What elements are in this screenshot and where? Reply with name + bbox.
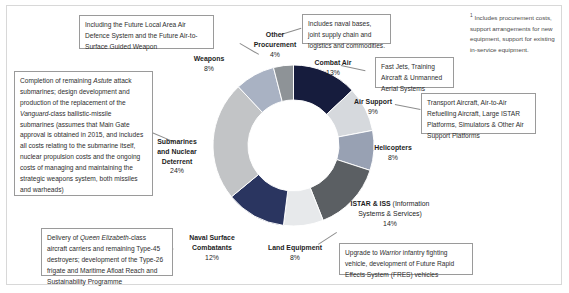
slice-label-combat-air: Combat Air 13% — [305, 58, 361, 78]
label-submarines-line2: and Nuclear — [157, 148, 196, 155]
label-weapons-name: Weapons — [183, 54, 235, 64]
callout-other-procurement: Includes naval bases, joint supply chain… — [302, 14, 391, 44]
label-submarines-line3: Deterrent — [162, 158, 193, 165]
slice-label-air-support: Air Support 9% — [348, 97, 398, 117]
label-istar-percent: 14% — [333, 219, 447, 229]
label-istar-name: ISTAR & ISS — [351, 200, 391, 207]
label-combat-air-percent: 13% — [305, 68, 361, 78]
callout-other-procurement-text: Includes naval bases, joint supply chain… — [308, 20, 385, 49]
label-submarines-percent: 24% — [147, 166, 207, 176]
label-air-support-name: Air Support — [348, 97, 398, 107]
label-land-equipment-name: Land Equipment — [258, 243, 332, 253]
callout-submarines: Completion of remaining Astute attack su… — [14, 71, 153, 196]
callout-air-support: Transport Aircraft, Air-to-Air Refuellin… — [421, 93, 536, 134]
slice-label-istar: ISTAR & ISS (Information Systems & Servi… — [333, 199, 447, 228]
label-combat-air-name: Combat Air — [305, 58, 361, 68]
label-istar-sub2: Systems & Services) — [358, 210, 422, 217]
callout-land-equipment: Upgrade to Warrior infantry fighting veh… — [339, 243, 473, 275]
callout-air-support-text: Transport Aircraft, Air-to-Air Refuellin… — [427, 99, 524, 139]
label-land-equipment-percent: 8% — [258, 253, 332, 263]
callout-combat-air: Fast Jets, Training Aircraft & Unmanned … — [375, 57, 454, 88]
infographic-page: 1 Includes procurement costs, support ar… — [0, 0, 569, 293]
label-naval-percent: 12% — [176, 253, 248, 263]
callout-land-equipment-text: Upgrade to Warrior infantry fighting veh… — [345, 249, 454, 278]
footnote-text: Includes procurement costs, support arra… — [470, 14, 555, 53]
label-air-support-percent: 9% — [348, 107, 398, 117]
label-helicopters-name: Helicopters — [367, 143, 419, 153]
callout-weapons-text: Including the Future Local Area Air Defe… — [85, 21, 198, 50]
slice-label-weapons: Weapons 8% — [183, 54, 235, 74]
slice-label-naval: Naval Surface Combatants 12% — [176, 233, 248, 262]
label-other-procurement-line1: Other — [266, 31, 284, 38]
label-istar-sub1: (Information — [391, 200, 430, 207]
label-other-procurement-percent: 4% — [246, 50, 304, 60]
label-submarines-line1: Submarines — [157, 138, 196, 145]
label-naval-line1: Naval Surface — [189, 234, 235, 241]
slice-label-other-procurement: Other Procurement 4% — [246, 30, 304, 59]
slice-label-submarines: Submarines and Nuclear Deterrent 24% — [147, 137, 207, 176]
slice-label-land-equipment: Land Equipment 8% — [258, 243, 332, 263]
callout-weapons: Including the Future Local Area Air Defe… — [79, 15, 214, 49]
slice-label-helicopters: Helicopters 8% — [367, 143, 419, 163]
footnote-marker: 1 — [470, 13, 473, 18]
label-other-procurement-line2: Procurement — [254, 41, 297, 48]
callout-naval: Delivery of Queen Elizabeth-class aircra… — [41, 228, 173, 276]
callout-combat-air-text: Fast Jets, Training Aircraft & Unmanned … — [381, 63, 442, 92]
callout-submarines-text: Completion of remaining Astute attack su… — [20, 77, 143, 193]
label-weapons-percent: 8% — [183, 64, 235, 74]
label-naval-line2: Combatants — [192, 244, 232, 251]
label-helicopters-percent: 8% — [367, 153, 419, 163]
footnote: 1 Includes procurement costs, support ar… — [470, 12, 556, 55]
